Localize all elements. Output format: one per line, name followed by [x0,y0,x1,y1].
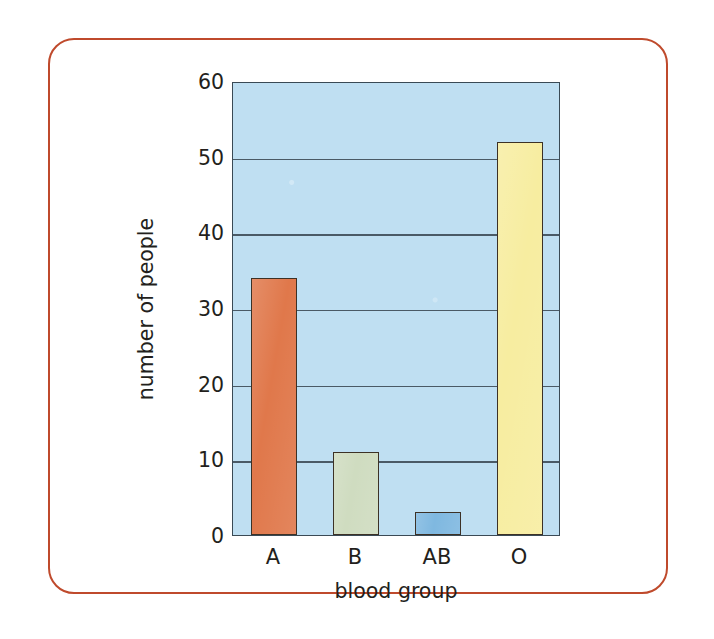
x-axis-title: blood group [232,579,560,603]
bar-a [251,278,297,535]
bar-chart: 0102030405060 ABABO blood group number o… [0,0,714,639]
y-axis-tick-labels: 0102030405060 [168,0,224,639]
y-axis-tick-label: 60 [176,72,224,93]
bar-ab [415,512,461,535]
x-axis-tick-label: AB [423,545,452,569]
y-axis-tick-label: 10 [176,450,224,471]
bar-sheen [334,453,378,534]
y-axis-tick-label: 20 [176,374,224,395]
bar-sheen [498,143,542,534]
x-axis-tick-label: A [266,545,280,569]
y-axis-title: number of people [134,218,158,400]
bar-sheen [252,279,296,534]
bar-sheen [416,513,460,534]
y-axis-tick-label: 30 [176,299,224,320]
y-axis-tick-label: 0 [176,526,224,547]
y-axis-tick-label: 50 [176,147,224,168]
x-axis-tick-label: B [348,545,362,569]
bar-o [497,142,543,535]
x-axis-tick-label: O [511,545,528,569]
y-axis-tick-label: 40 [176,223,224,244]
plot-area [232,82,560,536]
bar-b [333,452,379,535]
